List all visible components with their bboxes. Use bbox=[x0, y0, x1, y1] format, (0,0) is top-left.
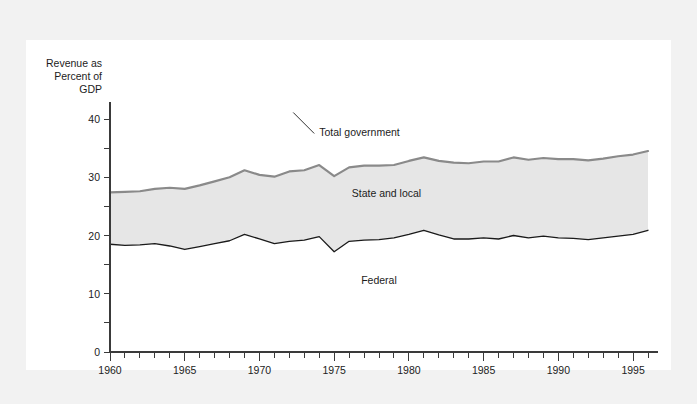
annotation-state-and-local: State and local bbox=[352, 187, 421, 199]
x-tick-label: 1960 bbox=[98, 364, 122, 376]
x-tick-label: 1985 bbox=[472, 364, 496, 376]
x-tick-label: 1995 bbox=[621, 364, 645, 376]
x-tick-label: 1980 bbox=[397, 364, 421, 376]
annotation-total-government: Total government bbox=[319, 126, 400, 138]
y-tick-label: 40 bbox=[88, 113, 100, 125]
x-tick-label: 1970 bbox=[248, 364, 272, 376]
annotation-federal: Federal bbox=[361, 274, 397, 286]
chart-figure: 0102030401960196519701975198019851990199… bbox=[0, 0, 697, 404]
y-tick-label: 30 bbox=[88, 171, 100, 183]
y-axis-title-line: Percent of bbox=[54, 70, 102, 82]
revenue-percent-gdp-chart: 0102030401960196519701975198019851990199… bbox=[0, 0, 697, 404]
y-tick-label: 10 bbox=[88, 288, 100, 300]
x-tick-label: 1975 bbox=[322, 364, 346, 376]
x-tick-label: 1965 bbox=[173, 364, 197, 376]
annotation-leader-line bbox=[293, 112, 314, 133]
y-tick-label: 0 bbox=[94, 346, 100, 358]
y-axis-title-line: Revenue as bbox=[46, 57, 102, 69]
x-tick-label: 1990 bbox=[547, 364, 571, 376]
y-axis-title-line: GDP bbox=[79, 83, 102, 95]
y-tick-label: 20 bbox=[88, 230, 100, 242]
